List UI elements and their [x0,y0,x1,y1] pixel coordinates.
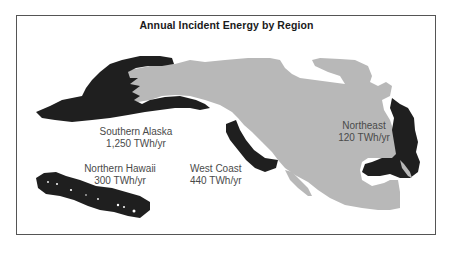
region-label-northern-hawaii: Northern Hawaii 300 TWh/yr [82,163,158,187]
region-name: Northeast [334,120,394,132]
region-value: 120 TWh/yr [334,132,394,144]
region-name: Northern Hawaii [82,163,158,175]
region-name: West Coast [190,163,250,175]
region-value: 300 TWh/yr [82,175,158,187]
region-value: 440 TWh/yr [190,175,250,187]
region-label-northeast: Northeast 120 TWh/yr [334,120,394,144]
region-label-southern-alaska: Southern Alaska 1,250 TWh/yr [98,126,174,150]
region-value: 1,250 TWh/yr [98,138,174,150]
map-title: Annual Incident Energy by Region [0,19,453,31]
region-label-west-coast: West Coast 440 TWh/yr [190,163,250,187]
region-name: Southern Alaska [98,126,174,138]
